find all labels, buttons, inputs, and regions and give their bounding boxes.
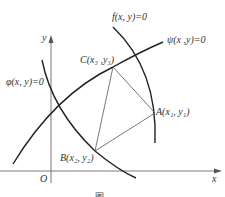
y-axis-label: y	[42, 33, 46, 43]
curve-phi-label: φ(x, y)=0	[6, 77, 44, 87]
point-b-label: B(x₂, y₂)	[60, 153, 94, 163]
point-a-label: A(x₁, y₁)	[156, 107, 190, 117]
x-axis-label: x	[212, 174, 216, 184]
diagram-canvas: y x O f(x, y)=0 ψ(x ,y)=0 φ(x, y)=0 A(x₁…	[0, 0, 225, 197]
figure-caption: 图	[95, 190, 104, 197]
curve-psi-label: ψ(x ,y)=0	[167, 35, 206, 45]
curve-f	[113, 27, 155, 143]
y-axis-arrow-icon	[49, 35, 54, 43]
diagram-graphics	[0, 0, 225, 197]
origin-label: O	[40, 174, 47, 184]
point-c-label: C(x₃ ,y₃)	[80, 55, 114, 65]
curve-f-label: f(x, y)=0	[112, 12, 147, 22]
